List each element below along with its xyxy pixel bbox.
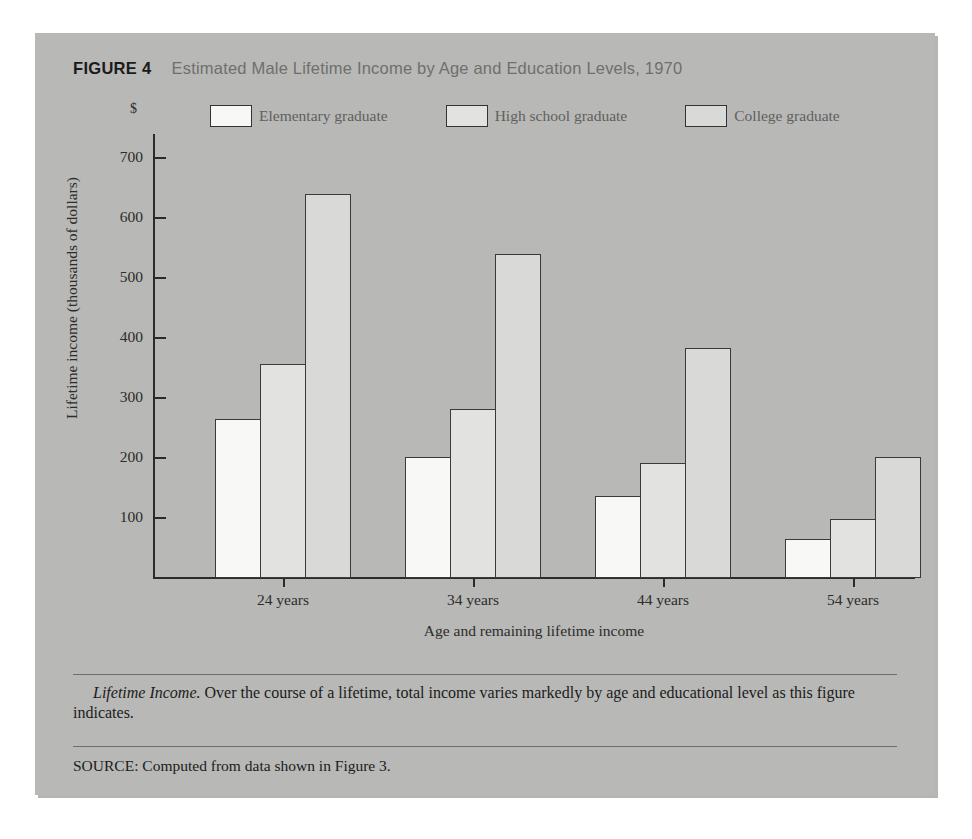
bar[interactable] xyxy=(215,419,261,578)
x-axis-tick xyxy=(663,579,665,587)
bar[interactable] xyxy=(595,496,641,578)
caption-lead: Lifetime Income. xyxy=(93,684,201,701)
y-axis-tick-label: 200 xyxy=(87,448,143,466)
bar[interactable] xyxy=(450,409,496,578)
bar[interactable] xyxy=(685,348,731,578)
caption-divider-top xyxy=(73,674,897,675)
x-axis-tick xyxy=(283,579,285,587)
x-axis-tick xyxy=(853,579,855,587)
x-axis-tick xyxy=(473,579,475,587)
bar[interactable] xyxy=(260,364,306,578)
y-axis-tick-label: 300 xyxy=(87,388,143,406)
bar[interactable] xyxy=(785,539,831,578)
bar[interactable] xyxy=(495,254,541,578)
caption-divider-bottom xyxy=(73,746,897,747)
bar[interactable] xyxy=(830,519,876,578)
x-axis-tick-label: 44 years xyxy=(593,591,733,609)
bar-group xyxy=(785,134,921,578)
x-axis-title: Age and remaining lifetime income xyxy=(153,622,915,640)
figure-caption: Lifetime Income. Over the course of a li… xyxy=(73,683,901,724)
chart-plot-area: Lifetime income (thousands of dollars) $… xyxy=(35,33,935,795)
x-axis-tick-label: 54 years xyxy=(783,591,923,609)
x-axis-tick-label: 34 years xyxy=(403,591,543,609)
y-axis-tick-label: 700 xyxy=(87,148,143,166)
y-axis-tick-label: 500 xyxy=(87,268,143,286)
bar-group xyxy=(405,134,541,578)
bar[interactable] xyxy=(305,194,351,578)
figure-source: SOURCE: Computed from data shown in Figu… xyxy=(73,757,901,775)
y-axis-tick-label: 100 xyxy=(87,508,143,526)
figure-panel: FIGURE 4 Estimated Male Lifetime Income … xyxy=(35,33,935,795)
bar-group xyxy=(215,134,351,578)
y-axis-unit-symbol: $ xyxy=(130,101,137,117)
source-label: SOURCE: xyxy=(73,757,138,774)
x-axis-area: Age and remaining lifetime income 24 yea… xyxy=(35,579,935,659)
y-axis-title: Lifetime income (thousands of dollars) xyxy=(63,133,81,463)
bar[interactable] xyxy=(640,463,686,578)
bar-group xyxy=(595,134,731,578)
bar[interactable] xyxy=(405,457,451,578)
bar-series-container xyxy=(153,134,915,578)
x-axis-tick-label: 24 years xyxy=(213,591,353,609)
y-axis-tick-label: 400 xyxy=(87,328,143,346)
y-axis-tick-label: 600 xyxy=(87,208,143,226)
bar[interactable] xyxy=(875,457,921,578)
source-text: Computed from data shown in Figure 3. xyxy=(138,757,390,774)
